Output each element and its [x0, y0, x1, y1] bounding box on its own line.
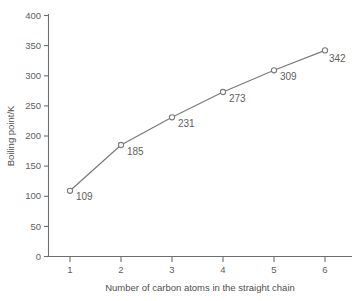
data-point-marker-2 [118, 142, 123, 147]
x-tick-label-6: 6 [322, 264, 327, 275]
y-tick-label-250: 250 [25, 100, 41, 111]
y-tick-label-200: 200 [25, 130, 41, 141]
x-axis-tick-labels: 1 2 3 4 5 6 [67, 264, 327, 275]
y-axis-title: Boiling point/K [5, 105, 16, 166]
data-point-marker-1 [67, 188, 72, 193]
data-point-marker-4 [220, 89, 225, 94]
data-point-label-5: 309 [280, 71, 297, 82]
data-point-label-2: 185 [127, 146, 144, 157]
y-tick-label-400: 400 [25, 10, 41, 21]
data-point-label-6: 342 [329, 53, 346, 64]
data-point-marker-5 [271, 68, 276, 73]
y-axis-ticks [44, 16, 49, 257]
x-axis-ticks [70, 257, 325, 263]
x-tick-label-1: 1 [67, 264, 72, 275]
y-tick-label-0: 0 [36, 251, 41, 262]
data-point-marker-6 [322, 48, 327, 53]
data-point-markers [67, 48, 327, 194]
y-tick-label-150: 150 [25, 160, 41, 171]
data-point-labels: 109 185 231 273 309 342 [76, 53, 346, 202]
boiling-point-line-chart: 0 50 100 150 200 250 300 350 400 1 2 3 4… [0, 0, 359, 301]
chart-plot-area: 0 50 100 150 200 250 300 350 400 1 2 3 4… [0, 0, 359, 301]
x-tick-label-5: 5 [271, 264, 276, 275]
y-tick-label-50: 50 [30, 221, 41, 232]
data-point-label-3: 231 [178, 118, 195, 129]
x-tick-label-3: 3 [169, 264, 174, 275]
data-point-label-4: 273 [229, 93, 246, 104]
data-point-marker-3 [169, 115, 174, 120]
x-tick-label-4: 4 [220, 264, 225, 275]
x-axis-title: Number of carbon atoms in the straight c… [105, 282, 295, 293]
y-axis-tick-labels: 0 50 100 150 200 250 300 350 400 [25, 10, 41, 262]
x-tick-label-2: 2 [118, 264, 123, 275]
y-tick-label-350: 350 [25, 40, 41, 51]
data-point-label-1: 109 [76, 191, 93, 202]
y-tick-label-100: 100 [25, 190, 41, 201]
y-tick-label-300: 300 [25, 70, 41, 81]
